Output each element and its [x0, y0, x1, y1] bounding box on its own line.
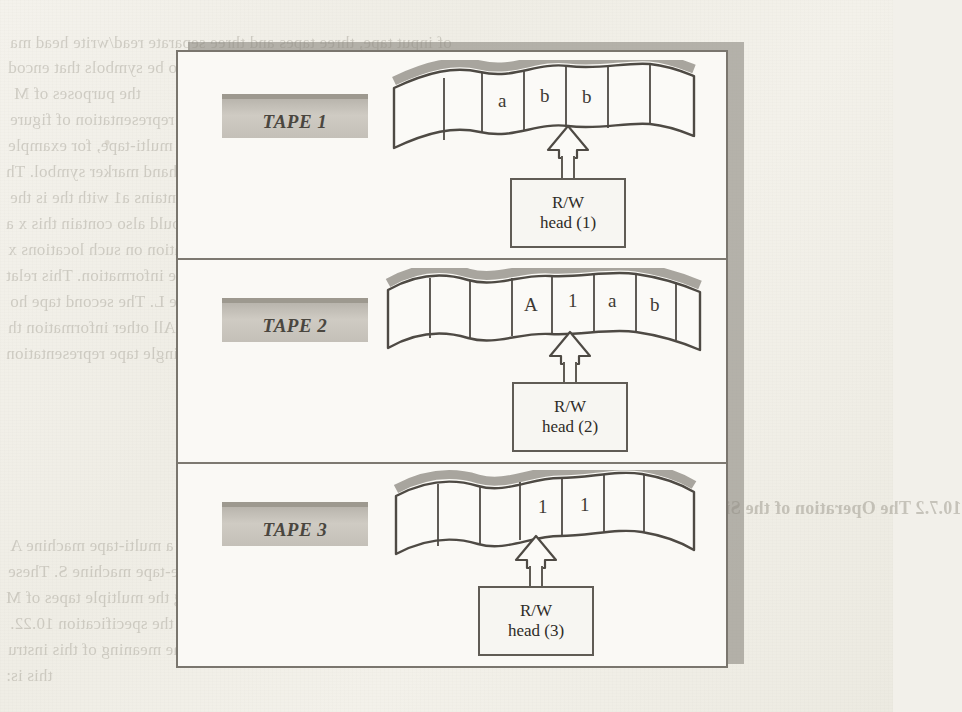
tape-2-rw-line1: R/W — [554, 397, 586, 417]
tape-3-cell-1b: 1 — [580, 494, 590, 516]
tape-2-cell-A: A — [524, 294, 538, 316]
tape-label-2-text: TAPE 2 — [263, 315, 328, 337]
tape-2-cell-b: b — [650, 294, 660, 316]
tape-3-head-arrow — [514, 534, 558, 570]
tape-label-3-text: TAPE 3 — [263, 519, 328, 541]
tape-2-head-stem — [563, 362, 577, 384]
tape-1-rw-line2: head (1) — [540, 213, 596, 233]
tape-1-rw-line1: R/W — [552, 193, 584, 213]
tape-1-cells: a b b — [388, 60, 700, 172]
tape-2-rw-line2: head (2) — [542, 417, 598, 437]
tape-machine-figure: TAPE 1 a b b — [176, 50, 732, 672]
tape-1-head-arrow — [546, 124, 590, 160]
tape-1-rw-head-box: R/W head (1) — [510, 178, 626, 248]
tape-1-cell-a: a — [498, 90, 506, 112]
tape-3-cell-1a: 1 — [538, 496, 548, 518]
tape-2-head-arrow — [548, 330, 592, 366]
tape-3-rw-line1: R/W — [520, 601, 552, 621]
tape-3-rw-line2: head (3) — [508, 621, 564, 641]
tape-2-cell-a: a — [608, 290, 616, 312]
tape-1-cell-b2: b — [582, 86, 592, 108]
tape-panel-1: TAPE 1 a b b — [178, 52, 726, 258]
tape-label-1-text: TAPE 1 — [263, 111, 328, 133]
tape-2-cells: A 1 a b — [384, 268, 706, 380]
figure-frame: TAPE 1 a b b — [176, 50, 728, 668]
tape-strip-2: A 1 a b — [384, 268, 706, 380]
tape-strip-1: a b b — [388, 60, 700, 172]
tape-label-2: TAPE 2 — [222, 298, 368, 342]
tape-panel-3: TAPE 3 1 1 — [178, 462, 726, 666]
tape-1-cell-b1: b — [540, 85, 550, 107]
tape-3-rw-head-box: R/W head (3) — [478, 586, 594, 656]
tape-2-rw-head-box: R/W head (2) — [512, 382, 628, 452]
tape-label-1: TAPE 1 — [222, 94, 368, 138]
tape-panel-2: TAPE 2 A 1 a b — [178, 258, 726, 464]
tape-1-head-stem — [561, 156, 575, 180]
tape-3-head-stem — [529, 566, 543, 588]
tape-label-3: TAPE 3 — [222, 502, 368, 546]
tape-2-cell-1: 1 — [568, 290, 578, 312]
